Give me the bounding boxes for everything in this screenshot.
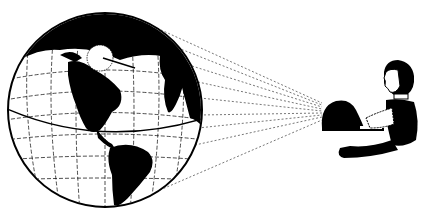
globe: [5, 11, 205, 212]
illustration: Black and white line illustration: a glo…: [0, 0, 426, 218]
illustration-canvas: [0, 0, 426, 218]
